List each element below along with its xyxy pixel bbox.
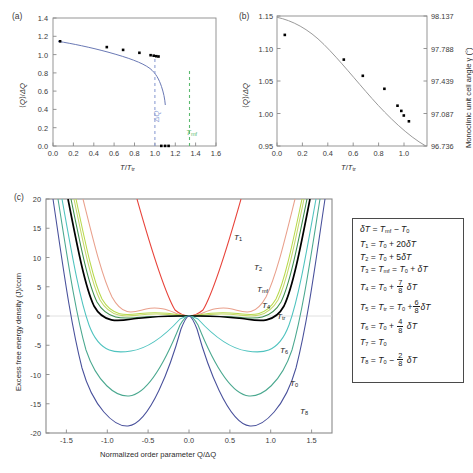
curve-label-t8: T8 bbox=[300, 407, 308, 416]
equation-t5: T5 = Ttr = T0 +68δT bbox=[360, 299, 463, 315]
panel-b-ytick: 1.15 bbox=[248, 12, 273, 21]
panel-c-xtick: 0.0 bbox=[179, 436, 199, 445]
curve-label-t2: T2 bbox=[254, 263, 262, 272]
panel-b-xtick: 0.2 bbox=[295, 149, 310, 158]
curve-label-ttr: Ttr bbox=[277, 312, 285, 321]
panel-b-yaxis-label: ⟨Q⟩/ΔQ bbox=[241, 83, 250, 108]
panel-c-ytick: -15 bbox=[18, 400, 41, 409]
panel-c-xaxis-label: Normalized order parameter Q/ΔQ bbox=[100, 450, 216, 459]
panel-a-xtick: 0.8 bbox=[127, 149, 142, 158]
curve-label-t4: T4 bbox=[262, 301, 270, 310]
panel-c-ytick: 20 bbox=[18, 195, 41, 204]
panel-a-xaxis-label: T/Ttr bbox=[120, 163, 135, 172]
panel-a-xtick: 1.6 bbox=[209, 149, 224, 158]
panel-c-xtick: -0.5 bbox=[138, 436, 158, 445]
panel-c-yaxis-label: Excess free energy density (J)/ccm bbox=[14, 273, 23, 391]
panel-b-yaxis-right-label: Monoclinic unit cell angle γ (°) bbox=[464, 47, 473, 148]
panel-a-ytick: 0.2 bbox=[28, 124, 48, 133]
panel-c-xtick: 0.5 bbox=[220, 436, 240, 445]
equation-delta-t: δT = Tmf − T0 bbox=[360, 225, 463, 234]
panel-a-ytick: 1.4 bbox=[28, 14, 48, 23]
panel-c: (c) bbox=[0, 185, 473, 473]
panel-a-ytick: 1.2 bbox=[28, 32, 48, 41]
panel-a-xtick: 0.4 bbox=[86, 149, 101, 158]
panel-b-ytick-right: 97.439 bbox=[431, 77, 454, 86]
panel-c-xtick: 1.0 bbox=[261, 436, 281, 445]
panel-b-xtick: 0.0 bbox=[270, 149, 285, 158]
panel-b-ytick-right: 97.087 bbox=[431, 110, 454, 119]
equations-box: δT = Tmf − T0 T1 = T0 + 20δT T2 = T0 + 5… bbox=[352, 218, 464, 383]
curve-label-t0: T0 bbox=[290, 379, 298, 388]
panel-b-ytick: 1.00 bbox=[248, 110, 273, 119]
panel-a-xtick: 0.6 bbox=[107, 149, 122, 158]
panel-a-tmf-annotation: Tmf bbox=[186, 128, 197, 137]
equation-t3: T3 = Tmf = T0 + δT bbox=[360, 265, 463, 274]
equation-t7: T7 = T0 bbox=[360, 338, 463, 347]
curve-label-t1: T1 bbox=[234, 233, 242, 242]
panel-b-ytick-right: 97.788 bbox=[431, 45, 454, 54]
panel-a: (a) bbox=[0, 0, 236, 185]
panel-b-xtick: 1.0 bbox=[397, 149, 412, 158]
panel-c-xtick: -1.5 bbox=[56, 436, 76, 445]
panel-c-ytick: -20 bbox=[18, 429, 41, 438]
panel-b-ytick: 1.10 bbox=[248, 45, 273, 54]
panel-c-xtick: -1.0 bbox=[97, 436, 117, 445]
panel-a-xtick: 0.2 bbox=[66, 149, 81, 158]
panel-b-ytick-right: 98.137 bbox=[431, 12, 454, 21]
panel-a-delta-q-annotation: ΔQ bbox=[152, 110, 161, 122]
panel-a-ytick: 0.4 bbox=[28, 105, 48, 114]
panel-b-xtick: 0.4 bbox=[320, 149, 335, 158]
panel-a-ytick: 0.8 bbox=[28, 69, 48, 78]
panel-a-xtick: 0.0 bbox=[46, 149, 61, 158]
panel-c-ytick: 10 bbox=[18, 254, 41, 263]
figure-root: (a) bbox=[0, 0, 473, 473]
panel-a-yaxis-label: ⟨Q⟩/ΔQ bbox=[18, 83, 27, 108]
equation-t2: T2 = T0 + 5δT bbox=[360, 253, 463, 262]
panel-a-ytick: 1.0 bbox=[28, 51, 48, 60]
panel-c-xtick: 1.5 bbox=[302, 436, 322, 445]
curve-label-tmf: Tmf bbox=[257, 285, 268, 294]
curve-label-t6: T6 bbox=[280, 346, 288, 355]
panel-a-xtick: 1.4 bbox=[188, 149, 203, 158]
panel-c-ytick: 15 bbox=[18, 224, 41, 233]
panel-b-ytick: 1.05 bbox=[248, 77, 273, 86]
panel-a-xtick: 1.0 bbox=[147, 149, 162, 158]
panel-b-ytick-right: 96.736 bbox=[431, 142, 454, 151]
panel-a-ytick: 0.6 bbox=[28, 87, 48, 96]
equation-t1: T1 = T0 + 20δT bbox=[360, 240, 463, 249]
panel-b-xtick: 0.8 bbox=[371, 149, 386, 158]
equation-t4: T4 = T0 + 78 δT bbox=[360, 279, 463, 295]
equation-t8: T8 = T0 − 28 δT bbox=[360, 352, 463, 368]
panel-a-xtick: 1.2 bbox=[168, 149, 183, 158]
panel-b: (b) bbox=[236, 0, 473, 185]
equation-t6: T6 = T0 + 48 δT bbox=[360, 318, 463, 334]
panel-b-xtick: 0.6 bbox=[346, 149, 361, 158]
panel-b-xaxis-label: T/Ttr bbox=[341, 163, 356, 172]
